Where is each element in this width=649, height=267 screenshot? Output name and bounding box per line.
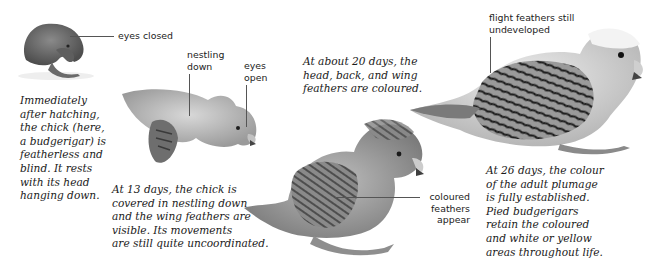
day26-bird-image (410, 20, 649, 160)
coloured-feathers-label: coloured feathers appear (420, 191, 470, 226)
flight-feathers-leader-line (490, 37, 491, 73)
day20-chick-image (244, 108, 434, 258)
eyes-closed-leader-line (70, 36, 114, 37)
coloured-feathers-leader-line (335, 197, 420, 198)
hatchling-caption: Immediately after hatching, the chick (h… (20, 94, 106, 203)
eyes-closed-label: eyes closed (118, 30, 173, 42)
day20-caption: At about 20 days, the head, back, and wi… (303, 55, 422, 96)
hatchling-chick-image (12, 16, 102, 82)
nestling-down-label: nestling down (187, 49, 224, 72)
eyes-open-label: eyes open (244, 60, 267, 83)
nestling-down-leader-line (189, 74, 190, 116)
budgerigar-development-figure: eyes closed Immediately after hatching, … (0, 0, 649, 267)
flight-feathers-label: flight feathers still undeveloped (489, 12, 574, 35)
day26-caption: At 26 days, the colour of the adult plum… (486, 164, 604, 259)
